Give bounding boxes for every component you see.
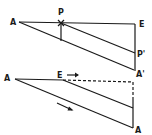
top-figure: A P E P' A' [10,8,145,79]
label-P-prime: P' [137,50,145,59]
line-A-E [19,22,135,24]
label-A: A [10,18,17,27]
dashed-line-E [63,80,133,82]
arrow-diagonal-icon [57,103,74,111]
line-A-E [15,79,63,80]
label-P: P [58,8,64,17]
line-P-Pprime [61,23,135,53]
label-E: E [57,71,62,80]
line-A-A [15,79,133,128]
arrow-right-icon [67,73,79,78]
bottom-figure: A E A [4,71,142,135]
label-A-right: A [135,126,142,135]
geometry-diagram: A P E P' A' A E A [0,0,152,135]
label-E: E [139,20,144,29]
label-A-left: A [4,74,11,83]
label-A-prime: A' [136,70,145,79]
